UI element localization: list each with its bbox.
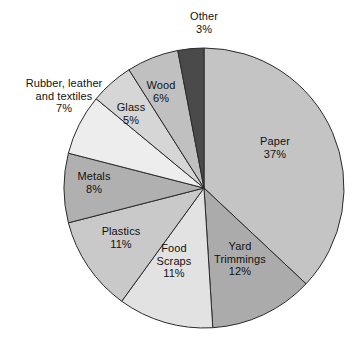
slice-label-yard-line1: Yard xyxy=(198,240,282,253)
slice-label-glass: Glass 5% xyxy=(104,101,158,126)
slice-label-paper-pct: 37% xyxy=(244,148,306,161)
slice-label-food-line1: Food xyxy=(146,242,202,255)
slice-label-metals: Metals 8% xyxy=(62,170,126,195)
slice-label-glass-pct: 5% xyxy=(104,114,158,127)
slice-label-food-line2: Scraps xyxy=(146,255,202,268)
slice-label-other-name: Other xyxy=(168,10,240,23)
slice-label-glass-name: Glass xyxy=(104,101,158,114)
slice-label-paper-name: Paper xyxy=(244,135,306,148)
slice-label-metals-name: Metals xyxy=(62,170,126,183)
slice-label-yard-line2: Trimmings xyxy=(198,253,282,266)
pie-chart: Other 3% Rubber, leather and textiles 7%… xyxy=(0,0,353,344)
slice-label-food-pct: 11% xyxy=(146,267,202,280)
slice-label-metals-pct: 8% xyxy=(62,183,126,196)
slice-label-food-scraps: Food Scraps 11% xyxy=(146,242,202,280)
slice-label-plastics-name: Plastics xyxy=(86,225,156,238)
pie-chart-canvas xyxy=(0,0,353,344)
slice-label-other: Other 3% xyxy=(168,10,240,35)
slice-label-yard-trimmings: Yard Trimmings 12% xyxy=(198,240,282,278)
slice-label-other-pct: 3% xyxy=(168,23,240,36)
slice-label-paper: Paper 37% xyxy=(244,135,306,160)
slice-label-yard-pct: 12% xyxy=(198,265,282,278)
slice-label-wood-name: Wood xyxy=(134,79,188,92)
slice-label-rubber-line1: Rubber, leather xyxy=(6,77,122,90)
